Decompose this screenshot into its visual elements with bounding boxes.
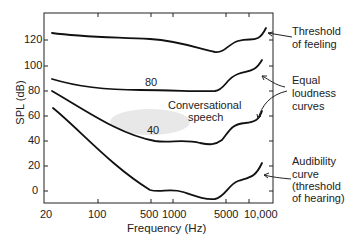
y-tick-100: 100 (24, 59, 42, 71)
x-axis-label: Frequency (Hz) (127, 222, 206, 235)
curve-label-80: 80 (145, 76, 157, 89)
y-tick-80: 80 (28, 84, 40, 96)
y-axis-label: SPL (dB) (14, 73, 27, 133)
feeling-label-1: Threshold (292, 25, 341, 38)
equal-label-2: loudness (292, 87, 336, 100)
x-tick-10000: 10,000 (244, 208, 278, 220)
equal-label-1: Equal (292, 74, 320, 87)
x-tick-500: 500 (140, 208, 158, 220)
y-tick-0: 0 (32, 184, 38, 196)
y-tick-120: 120 (24, 33, 42, 45)
curve-label-40: 40 (147, 124, 159, 137)
x-tick-1000: 1000 (162, 208, 186, 220)
x-tick-5000: 5000 (214, 208, 238, 220)
audibility-label-1: Audibility (292, 155, 336, 168)
annotation-arrows (257, 32, 292, 179)
y-tick-40: 40 (28, 134, 40, 146)
equal-label-3: curves (292, 100, 324, 113)
curve-threshold-of-feeling (52, 28, 266, 52)
y-tick-60: 60 (28, 109, 40, 121)
x-tick-100: 100 (88, 208, 106, 220)
feeling-label-2: of feeling (292, 38, 337, 51)
speech-label-2: speech (188, 111, 223, 124)
audibility-label-4: of hearing) (292, 192, 345, 205)
x-tick-20: 20 (40, 208, 52, 220)
y-tick-20: 20 (28, 159, 40, 171)
